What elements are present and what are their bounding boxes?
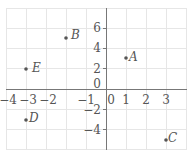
x-tick-label: −3 xyxy=(19,93,37,107)
point-label: D xyxy=(28,111,39,125)
x-tick-label: −2 xyxy=(39,93,57,107)
point-label: B xyxy=(70,28,80,42)
x-tick-label: 1 xyxy=(122,93,130,107)
coordinate-plane: −4 −3 −2 −1 0 1 2 3 6 4 2 0 −2 −4 A B C … xyxy=(0,0,196,154)
x-tick-label: 2 xyxy=(142,93,150,107)
y-tick-label: −2 xyxy=(83,103,101,117)
x-tick-label: 3 xyxy=(162,93,170,107)
x-tick-label: −4 xyxy=(0,93,17,107)
point-label: A xyxy=(128,50,138,64)
point-label: C xyxy=(168,131,177,145)
x-tick-label: 0 xyxy=(107,93,115,107)
point-label: E xyxy=(31,61,41,75)
y-tick-label: 4 xyxy=(93,41,101,55)
y-tick-label: 2 xyxy=(93,62,101,76)
y-tick-label: 6 xyxy=(93,21,101,35)
y-tick-label: −4 xyxy=(83,123,101,137)
y-tick-label: 0 xyxy=(93,77,101,91)
